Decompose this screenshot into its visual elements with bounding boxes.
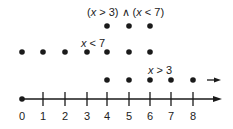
solution-dot [126,77,132,83]
solution-dot [104,23,110,29]
tick-label: 3 [84,110,90,122]
solution-dot [19,49,25,55]
tick-label: 8 [190,110,196,122]
tick-label: 2 [62,110,68,122]
x-less-than-7-label: x < 7 [81,37,105,49]
solution-dot [40,49,46,55]
tick-label: 5 [126,110,132,122]
solution-dot [126,49,132,55]
solution-dot [147,49,153,55]
origin-dot [19,96,25,102]
solution-dot [126,23,132,29]
intersection-label: (x > 3) ∧ (x < 7) [87,6,164,19]
tick-label: 4 [104,110,110,122]
number-line-diagram [0,0,233,129]
solution-dot [168,77,174,83]
continues-arrow-icon [207,78,221,83]
solution-dot [147,23,153,29]
solution-dot [104,77,110,83]
solution-dot [62,49,68,55]
solution-dot [104,49,110,55]
axis-arrow-icon [213,96,222,102]
tick-label: 6 [147,110,153,122]
tick-label: 0 [19,110,25,122]
solution-dot [84,49,90,55]
number-line [19,92,222,106]
tick-label: 1 [40,110,46,122]
solution-dot [190,77,196,83]
x-greater-than-3-label: x > 3 [148,64,172,76]
tick-label: 7 [168,110,174,122]
solution-dot [147,77,153,83]
